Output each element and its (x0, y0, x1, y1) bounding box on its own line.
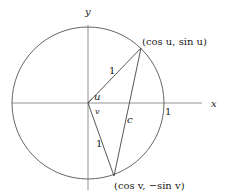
radius-p1-label: 1 (109, 65, 115, 76)
unit-circle-diagram: y x 1 (cos u, sin u) (cos v, −sin v) 1 1… (0, 0, 229, 196)
circle-radius-label: 1 (165, 106, 171, 117)
y-axis-label: y (84, 6, 91, 17)
x-axis-label: x (211, 98, 217, 109)
point-p1-label: (cos u, sin u) (142, 36, 207, 47)
point-p2-label: (cos v, −sin v) (114, 180, 185, 191)
radius-p2-label: 1 (96, 138, 102, 149)
angle-v-label: v (95, 107, 100, 116)
chord-c (114, 48, 141, 176)
chord-label: c (127, 114, 133, 125)
angle-u-arc (88, 99, 92, 103)
angle-u-label: u (94, 91, 100, 102)
